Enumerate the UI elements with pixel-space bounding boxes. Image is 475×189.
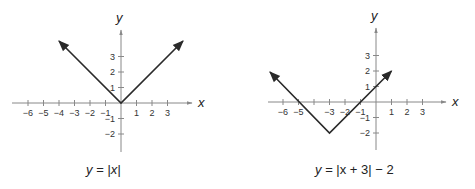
svg-text:2: 2 xyxy=(404,107,409,117)
caption-left: y = |x| xyxy=(86,162,121,177)
svg-text:2: 2 xyxy=(149,108,154,118)
svg-text:−1: −1 xyxy=(105,114,115,124)
caption-eq: = xyxy=(96,162,104,177)
svg-text:−5: −5 xyxy=(38,108,48,118)
svg-text:−3: −3 xyxy=(324,107,334,117)
caption-eq: = xyxy=(325,162,333,177)
svg-text:−2: −2 xyxy=(105,129,115,139)
svg-text:−2: −2 xyxy=(360,128,370,138)
caption-lhs: y xyxy=(315,162,322,177)
svg-text:1: 1 xyxy=(389,107,394,117)
svg-text:−6: −6 xyxy=(278,107,288,117)
y-axis-label: y xyxy=(115,10,124,25)
svg-text:3: 3 xyxy=(420,107,425,117)
x-tick-labels: −6 −5 −4 −3 −2 −1 1 2 3 xyxy=(23,108,170,118)
y-axis-label: y xyxy=(370,8,379,23)
svg-text:3: 3 xyxy=(365,51,370,61)
caption-lhs: y xyxy=(86,162,93,177)
svg-text:2: 2 xyxy=(110,67,115,77)
graph-shifted-abs: −6 −5 −3 −2 −1 1 2 3 3 2 1 −1 −2 x y xyxy=(268,8,459,150)
svg-text:−1: −1 xyxy=(360,113,370,123)
svg-text:3: 3 xyxy=(110,52,115,62)
figure: −6 −5 −4 −3 −2 −1 1 2 3 3 2 1 −1 −2 x y xyxy=(0,0,475,189)
svg-text:1: 1 xyxy=(110,83,115,93)
graph-abs-x: −6 −5 −4 −3 −2 −1 1 2 3 3 2 1 −1 −2 x y xyxy=(12,10,205,152)
svg-text:2: 2 xyxy=(365,66,370,76)
svg-text:−6: −6 xyxy=(23,108,33,118)
svg-text:−2: −2 xyxy=(340,107,350,117)
x-axis-label: x xyxy=(197,95,205,110)
caption-rhs: |x| xyxy=(107,162,120,177)
svg-text:−2: −2 xyxy=(85,108,95,118)
caption-right: y = |x + 3| − 2 xyxy=(315,162,394,177)
caption-rhs: |x + 3| − 2 xyxy=(336,162,393,177)
svg-text:1: 1 xyxy=(365,82,370,92)
svg-text:3: 3 xyxy=(165,108,170,118)
svg-text:1: 1 xyxy=(134,108,139,118)
svg-text:−3: −3 xyxy=(69,108,79,118)
svg-text:−4: −4 xyxy=(54,108,64,118)
x-axis-label: x xyxy=(451,94,459,109)
svg-text:−5: −5 xyxy=(293,107,303,117)
